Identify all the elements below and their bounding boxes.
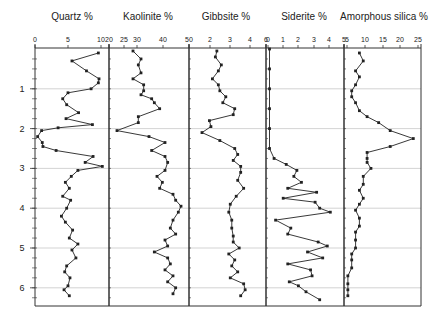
data-line <box>117 51 181 294</box>
data-point <box>268 127 271 130</box>
data-point <box>91 123 94 126</box>
data-point <box>65 103 68 106</box>
data-point <box>137 64 140 67</box>
data-point <box>232 241 235 244</box>
data-point <box>70 175 73 178</box>
data-point <box>227 253 230 256</box>
panel-amorphous-silica: 510152025 <box>344 36 422 306</box>
data-point <box>358 52 361 55</box>
data-point <box>315 191 318 194</box>
data-point <box>215 50 218 53</box>
data-point <box>232 235 235 238</box>
data-point <box>177 211 180 214</box>
data-point <box>150 149 153 152</box>
panel-kaolinite: 2025304050 <box>105 36 193 306</box>
data-point <box>65 117 68 120</box>
data-point <box>68 237 71 240</box>
data-point <box>268 48 271 51</box>
data-point <box>350 89 353 92</box>
data-point <box>306 251 309 254</box>
panel-title-gibbsite: Gibbsite % <box>202 11 250 22</box>
data-point <box>314 201 317 204</box>
data-point <box>174 286 177 289</box>
x-tick-label: 4 <box>248 36 252 43</box>
x-tick-label: 2 <box>208 36 212 43</box>
data-point <box>285 163 288 166</box>
data-point <box>232 159 235 162</box>
data-point <box>235 195 238 198</box>
data-point <box>90 87 93 90</box>
data-point <box>233 147 236 150</box>
data-point <box>288 280 291 283</box>
data-point <box>166 161 169 164</box>
data-point <box>92 155 95 158</box>
data-point <box>350 253 353 256</box>
data-point <box>354 239 357 242</box>
data-point <box>69 276 72 279</box>
data-point <box>98 77 101 80</box>
data-point <box>65 207 68 210</box>
data-point <box>101 165 104 168</box>
data-point <box>366 151 369 154</box>
data-point <box>161 181 164 184</box>
data-point <box>164 239 167 242</box>
data-point <box>366 157 369 160</box>
data-point <box>329 211 332 214</box>
data-point <box>68 294 71 297</box>
data-point <box>354 83 357 86</box>
x-tick-label: 25 <box>120 36 128 43</box>
data-point <box>158 187 161 190</box>
data-point <box>236 270 239 273</box>
data-point <box>354 209 357 212</box>
data-point <box>242 282 245 285</box>
data-point <box>389 129 392 132</box>
data-point <box>137 121 140 124</box>
data-point <box>57 126 60 129</box>
data-point <box>311 274 314 277</box>
data-point <box>366 115 369 118</box>
data-point <box>166 245 169 248</box>
data-point <box>140 71 143 74</box>
data-point <box>75 257 78 260</box>
data-line <box>348 53 413 296</box>
data-point <box>63 270 66 273</box>
data-point <box>221 101 224 104</box>
data-point <box>317 241 320 244</box>
data-point <box>224 95 227 98</box>
data-point <box>318 207 321 210</box>
data-point <box>77 243 80 246</box>
data-point <box>132 50 135 53</box>
panel-title-kaolinite: Kaolinite % <box>123 11 173 22</box>
data-point <box>286 263 289 266</box>
data-point <box>318 298 321 301</box>
data-point <box>65 265 68 268</box>
data-point <box>236 153 239 156</box>
data-point <box>142 89 145 92</box>
data-point <box>97 81 100 84</box>
data-point <box>358 75 361 78</box>
panel-title-quartz: Quartz % <box>51 11 93 22</box>
x-tick-label: 0 <box>33 36 37 43</box>
data-point <box>41 141 44 144</box>
data-point <box>217 69 220 72</box>
data-point <box>358 217 361 220</box>
data-line <box>202 51 245 296</box>
data-point <box>64 221 67 224</box>
data-point <box>229 203 232 206</box>
data-point <box>282 197 285 200</box>
data-point <box>354 101 357 104</box>
data-point <box>346 288 349 291</box>
x-tick-label: 10 <box>361 36 369 43</box>
data-point <box>350 95 353 98</box>
data-point <box>230 227 233 230</box>
data-point <box>84 161 87 164</box>
data-point <box>358 109 361 112</box>
data-point <box>229 276 232 279</box>
data-point <box>297 284 300 287</box>
data-point <box>309 268 312 271</box>
data-point <box>67 284 70 287</box>
data-point <box>354 231 357 234</box>
x-tick-label: 20 <box>105 36 113 43</box>
data-point <box>370 167 373 170</box>
data-point <box>358 189 361 192</box>
